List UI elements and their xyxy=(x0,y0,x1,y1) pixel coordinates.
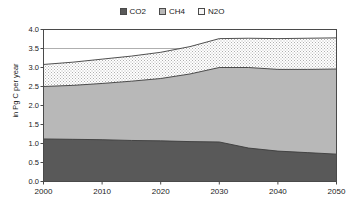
area-series-group xyxy=(44,38,337,182)
